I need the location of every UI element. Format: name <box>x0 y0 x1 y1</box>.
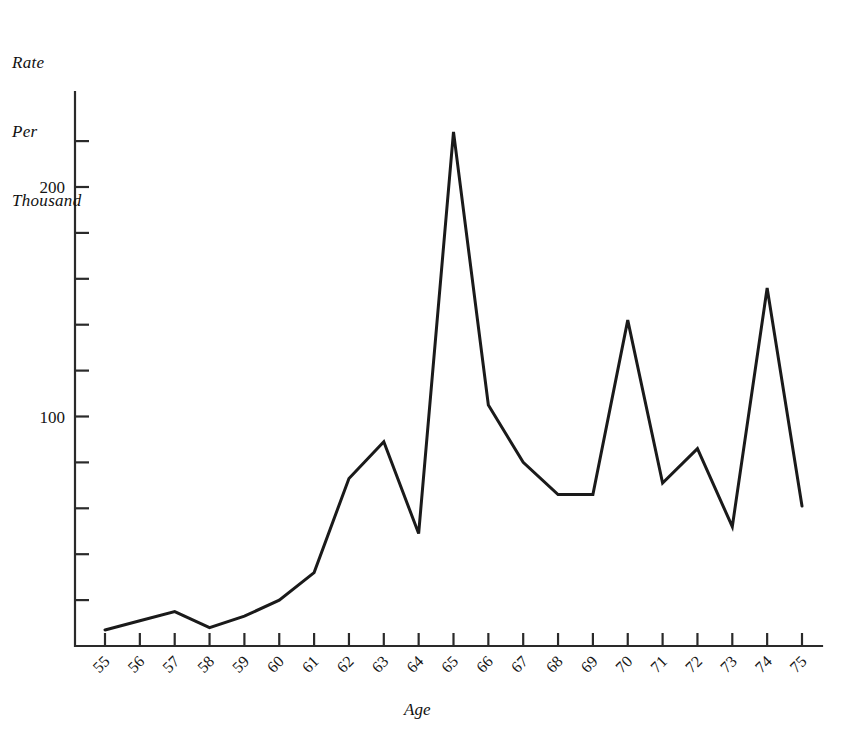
x-axis-tick-label: 58 <box>194 652 217 675</box>
y-axis-title: Rate Per Thousand <box>12 6 81 258</box>
x-axis-tick-label: 62 <box>333 652 356 675</box>
x-axis-tick-label: 61 <box>299 652 322 675</box>
x-axis-tick-label: 67 <box>508 652 531 675</box>
x-axis-tick-label: 63 <box>368 652 391 675</box>
x-axis-tick-label: 60 <box>264 652 287 675</box>
x-axis-tick-labels: 5556575859606162636465666768697071727374… <box>89 652 809 675</box>
x-axis-tick-label: 71 <box>647 652 670 675</box>
x-axis-tick-label: 59 <box>229 652 252 675</box>
y-axis-tick-label: 100 <box>40 408 66 427</box>
chart-figure: Rate Per Thousand 100200 555657585960616… <box>0 0 850 739</box>
x-axis-tick-label: 74 <box>752 652 775 675</box>
y-axis-title-line-2: Per <box>12 121 81 144</box>
x-axis-ticks <box>105 633 802 646</box>
y-axis-title-line-1: Rate <box>12 52 81 75</box>
x-axis-tick-label: 65 <box>438 652 461 675</box>
x-axis-tick-label: 66 <box>473 652 496 675</box>
series-line-rate-per-thousand <box>105 132 802 630</box>
x-axis-tick-label: 73 <box>717 652 740 675</box>
y-axis-title-line-3: Thousand <box>12 190 81 213</box>
line-chart-plot: 100200 555657585960616263646566676869707… <box>0 0 850 739</box>
x-axis-tick-label: 75 <box>786 652 809 675</box>
x-axis-tick-label: 57 <box>159 652 182 675</box>
x-axis-tick-label: 68 <box>542 652 565 675</box>
x-axis-title: Age <box>404 700 430 720</box>
data-series-line <box>105 132 802 630</box>
x-axis-tick-label: 72 <box>682 652 705 675</box>
x-axis-tick-label: 69 <box>577 652 600 675</box>
x-axis-tick-label: 64 <box>403 652 426 675</box>
x-axis-tick-label: 70 <box>612 652 635 675</box>
x-axis-tick-label: 55 <box>89 652 112 675</box>
x-axis-tick-label: 56 <box>124 652 147 675</box>
